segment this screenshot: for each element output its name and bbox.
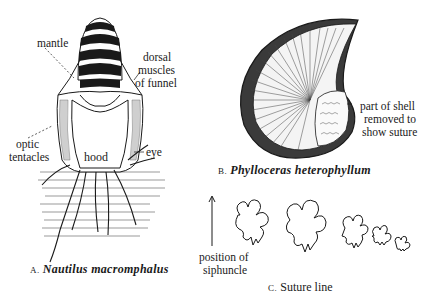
caption-b: B. Phylloceras heterophyllum bbox=[218, 163, 371, 178]
label-part-line3: show suture bbox=[362, 126, 417, 138]
caption-b-name: Phylloceras heterophyllum bbox=[230, 163, 371, 177]
label-eye: eye bbox=[146, 146, 162, 158]
ammonite-drawing bbox=[241, 19, 358, 158]
label-part-line1: part of shell bbox=[360, 100, 415, 112]
caption-b-letter: B. bbox=[218, 166, 227, 176]
caption-a-name: Nautilus macromphalus bbox=[43, 262, 169, 276]
label-position-line2: siphuncle bbox=[203, 264, 247, 276]
label-dorsal-line1: dorsal bbox=[143, 51, 171, 63]
caption-c: C. Suture line bbox=[268, 280, 333, 295]
caption-a-letter: A. bbox=[30, 265, 40, 275]
caption-c-letter: C. bbox=[268, 283, 277, 293]
label-position-line1: position of bbox=[199, 251, 249, 263]
label-optic-line2: tentacles bbox=[9, 151, 49, 163]
label-part-line2: removed to bbox=[364, 113, 416, 125]
label-optic-line1: optic bbox=[16, 138, 39, 150]
caption-c-name: Suture line bbox=[280, 280, 332, 294]
label-dorsal-line2: muscles bbox=[138, 64, 175, 76]
label-hood: hood bbox=[84, 151, 108, 163]
caption-a: A. Nautilus macromphalus bbox=[30, 262, 169, 277]
water-lines bbox=[38, 172, 165, 236]
label-mantle: mantle bbox=[37, 37, 68, 49]
label-dorsal-line3: of funnel bbox=[135, 77, 177, 89]
suture-drawing bbox=[209, 196, 410, 252]
